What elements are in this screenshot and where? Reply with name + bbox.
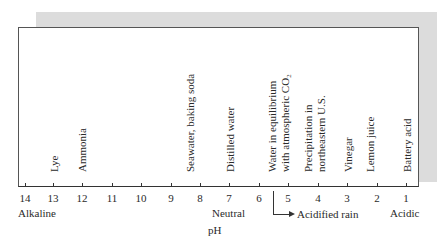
tick-2 [377,183,378,187]
ph-axis-title: pH [208,224,221,236]
label-water-co2-line1: Water in equilibrium [266,81,278,172]
label-precipitation-line1: Precipitation in [302,104,314,172]
tick-7 [229,183,230,187]
tick-4 [318,183,319,187]
acidified-rain-bracket-arm [273,214,290,215]
alkaline-label: Alkaline [18,207,56,219]
label-lemon-juice: Lemon juice [364,117,376,172]
neutral-label: Neutral [212,207,245,219]
tick-label: 2 [367,192,387,204]
tick-13 [53,183,54,187]
tick-label: 14 [15,192,35,204]
tick-8 [200,183,201,187]
tick-11 [112,183,113,187]
tick-label: 13 [43,192,63,204]
label-battery-acid: Battery acid [401,119,413,172]
label-lye: Lye [48,156,60,173]
tick-label: 6 [249,192,269,204]
label-water-co2-line2: with atmospheric CO₂ [279,74,291,172]
tick-14 [25,183,26,187]
tick-label: 9 [161,192,181,204]
label-seawater: Seawater, baking soda [184,74,196,172]
acidified-rain-label: Acidified rain [297,208,358,220]
tick-9 [171,183,172,187]
tick-5 [288,183,289,187]
tick-label: 7 [219,192,239,204]
arrow-right-icon [289,211,295,217]
label-precipitation-line2: northeastern U.S. [315,95,327,172]
tick-label: 11 [102,192,122,204]
label-distilled-water: Distilled water [224,107,236,172]
tick-label: 3 [337,192,357,204]
tick-1 [406,183,407,187]
tick-label: 12 [72,192,92,204]
tick-12 [82,183,83,187]
label-ammonia: Ammonia [76,128,88,172]
tick-label: 4 [308,192,328,204]
tick-label: 8 [190,192,210,204]
tick-label: 1 [396,192,416,204]
acidified-rain-bracket [273,191,274,214]
acidic-label: Acidic [390,207,419,219]
tick-6 [259,183,260,187]
tick-label: 10 [131,192,151,204]
tick-3 [347,183,348,187]
tick-10 [141,183,142,187]
label-vinegar: Vinegar [342,137,354,172]
tick-label: 5 [278,192,298,204]
